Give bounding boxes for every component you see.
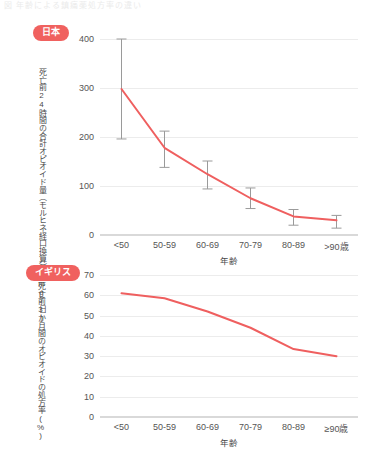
y-axis-tick-uk: 10	[84, 392, 100, 402]
y-axis-tick-uk: 40	[84, 331, 100, 341]
x-axis-tick-uk: 70-79	[239, 422, 262, 432]
x-axis-tick-uk: ≥90歳	[325, 422, 349, 435]
data-line	[122, 89, 337, 220]
series-line-uk	[100, 275, 358, 417]
y-axis-tick-uk: 0	[89, 412, 100, 422]
y-axis-tick-japan: 300	[79, 83, 100, 93]
x-axis-tick-uk: 50-59	[153, 422, 176, 432]
x-axis-tick-japan: >90歳	[324, 240, 348, 253]
y-axis-tick-japan: 100	[79, 181, 100, 191]
x-axis-tick-uk: 60-69	[196, 422, 219, 432]
y-axis-tick-japan: 400	[79, 34, 100, 44]
badge-japan: 日本	[33, 25, 69, 41]
chart-panel-japan: 日本 死亡前24時間の合計オピオイド量（モルヒネ経口換算）(mg/日) 年齢 0…	[0, 18, 373, 270]
x-axis-tick-japan: 80-89	[282, 240, 305, 250]
gridline	[100, 235, 358, 236]
y-axis-tick-uk: 70	[84, 270, 100, 280]
error-bar	[332, 215, 342, 228]
chart-panel-uk: イギリス 死亡前3か月間のオピオイドの処方率(%) 年齢 01020304050…	[0, 262, 373, 462]
page-header-caption: 図 年齢による鎮痛薬処方率の違い	[0, 0, 373, 12]
y-axis-tick-uk: 50	[84, 311, 100, 321]
y-axis-tick-uk: 30	[84, 351, 100, 361]
x-axis-tick-uk: <50	[114, 422, 129, 432]
plot-area-japan: 年齢 0100200300400<5050-5960-6970-7980-89>…	[100, 39, 358, 235]
plot-area-uk: 年齢 010203040506070<5050-5960-6970-7980-8…	[100, 275, 358, 417]
x-axis-tick-uk: 80-89	[282, 422, 305, 432]
x-axis-title-uk: 年齢	[220, 436, 238, 448]
y-axis-tick-japan: 200	[79, 132, 100, 142]
x-axis-tick-japan: 60-69	[196, 240, 219, 250]
y-axis-tick-uk: 20	[84, 371, 100, 381]
y-axis-tick-uk: 60	[84, 290, 100, 300]
series-line-japan	[100, 39, 358, 235]
x-axis-tick-japan: <50	[114, 240, 129, 250]
gridline	[100, 417, 358, 418]
data-line	[122, 293, 337, 356]
y-axis-label-uk: 死亡前3か月間のオピオイドの処方率(%)	[36, 282, 45, 440]
header-caption-text: 図 年齢による鎮痛薬処方率の違い	[0, 0, 373, 12]
y-axis-tick-japan: 0	[89, 230, 100, 240]
x-axis-tick-japan: 70-79	[239, 240, 262, 250]
x-axis-tick-japan: 50-59	[153, 240, 176, 250]
badge-uk: イギリス	[26, 265, 80, 281]
